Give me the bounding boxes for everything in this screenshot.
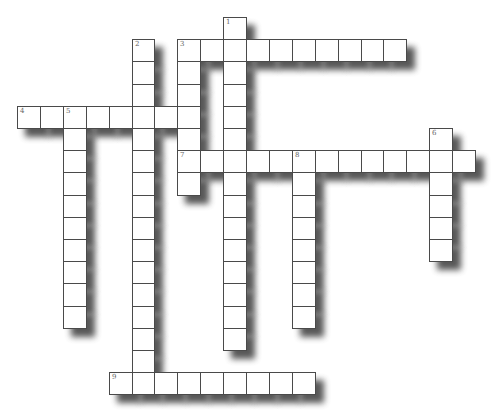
crossword-cell[interactable] [269, 372, 293, 395]
crossword-cell[interactable] [223, 261, 247, 284]
crossword-cell[interactable]: 3 [177, 39, 201, 62]
crossword-cell[interactable] [315, 150, 339, 173]
crossword-cell[interactable] [40, 106, 64, 129]
crossword-cell[interactable] [154, 372, 178, 395]
crossword-cell[interactable] [132, 128, 155, 151]
clue-number: 5 [66, 108, 70, 115]
crossword-cell[interactable] [223, 328, 247, 351]
crossword-cell[interactable] [292, 306, 316, 329]
crossword-cell[interactable] [223, 283, 247, 307]
crossword-cell[interactable] [132, 84, 155, 107]
crossword-cell[interactable] [132, 172, 155, 196]
crossword-cell[interactable] [132, 239, 155, 262]
crossword-cell[interactable] [177, 128, 201, 151]
crossword-cell[interactable] [292, 217, 316, 240]
crossword-cell[interactable] [132, 372, 155, 395]
crossword-cell[interactable] [200, 150, 224, 173]
crossword-cell[interactable] [63, 217, 87, 240]
crossword-cell[interactable] [223, 150, 247, 173]
crossword-cell[interactable] [315, 39, 339, 62]
clue-number: 8 [295, 152, 299, 159]
crossword-cell[interactable] [223, 61, 247, 85]
crossword-cell[interactable] [200, 39, 224, 62]
crossword-cell[interactable] [200, 372, 224, 395]
crossword-cell[interactable] [429, 239, 453, 262]
crossword-cell[interactable]: 5 [63, 106, 87, 129]
crossword-cell[interactable] [63, 283, 87, 307]
crossword-cell[interactable] [132, 61, 155, 85]
crossword-cell[interactable] [109, 106, 133, 129]
crossword-cell[interactable] [132, 306, 155, 329]
clue-number: 9 [112, 374, 116, 381]
crossword-cell[interactable] [361, 150, 384, 173]
crossword-cell[interactable] [63, 150, 87, 173]
crossword-cell[interactable] [429, 172, 453, 196]
crossword-cell[interactable] [177, 172, 201, 196]
crossword-cell[interactable] [63, 261, 87, 284]
crossword-cell[interactable] [292, 172, 316, 196]
crossword-cell[interactable]: 8 [292, 150, 316, 173]
clue-number: 6 [432, 130, 436, 137]
crossword-board: 123745689 [0, 0, 495, 411]
crossword-cell[interactable] [223, 306, 247, 329]
crossword-cell[interactable] [177, 61, 201, 85]
crossword-cell[interactable]: 7 [177, 150, 201, 173]
crossword-cell[interactable] [132, 283, 155, 307]
crossword-cell[interactable] [132, 217, 155, 240]
crossword-cell[interactable] [132, 195, 155, 218]
crossword-cell[interactable] [223, 239, 247, 262]
crossword-cell[interactable] [292, 195, 316, 218]
crossword-cell[interactable] [429, 150, 453, 173]
crossword-cell[interactable] [177, 372, 201, 395]
clue-number: 3 [180, 41, 184, 48]
crossword-cell[interactable] [269, 39, 293, 62]
crossword-cell[interactable] [177, 84, 201, 107]
crossword-cell[interactable] [292, 283, 316, 307]
crossword-cell[interactable] [429, 217, 453, 240]
crossword-cell[interactable] [246, 150, 270, 173]
crossword-cell[interactable] [223, 372, 247, 395]
crossword-cell[interactable] [132, 328, 155, 351]
crossword-cell[interactable] [361, 39, 384, 62]
crossword-cell[interactable] [132, 106, 155, 129]
crossword-cell[interactable] [132, 350, 155, 373]
clue-number: 7 [180, 152, 184, 159]
crossword-cell[interactable]: 9 [109, 372, 133, 395]
crossword-cell[interactable] [177, 106, 201, 129]
crossword-cell[interactable] [223, 217, 247, 240]
crossword-cell[interactable] [86, 106, 110, 129]
crossword-cell[interactable] [223, 195, 247, 218]
crossword-cell[interactable] [452, 150, 476, 173]
crossword-cell[interactable] [292, 372, 316, 395]
crossword-cell[interactable] [246, 39, 270, 62]
crossword-cell[interactable]: 1 [223, 17, 247, 40]
crossword-cell[interactable] [132, 261, 155, 284]
crossword-cell[interactable] [223, 128, 247, 151]
crossword-cell[interactable] [429, 195, 453, 218]
crossword-cell[interactable] [154, 106, 178, 129]
crossword-cell[interactable] [269, 150, 293, 173]
crossword-cell[interactable] [338, 39, 362, 62]
crossword-cell[interactable] [63, 128, 87, 151]
crossword-cell[interactable] [63, 195, 87, 218]
clue-number: 2 [135, 41, 139, 48]
crossword-cell[interactable] [292, 239, 316, 262]
crossword-cell[interactable] [246, 372, 270, 395]
crossword-cell[interactable] [292, 261, 316, 284]
crossword-cell[interactable] [223, 39, 247, 62]
crossword-cell[interactable] [63, 239, 87, 262]
crossword-cell[interactable] [132, 150, 155, 173]
crossword-cell[interactable] [383, 150, 407, 173]
crossword-cell[interactable] [338, 150, 362, 173]
crossword-cell[interactable]: 6 [429, 128, 453, 151]
crossword-cell[interactable]: 4 [17, 106, 41, 129]
crossword-cell[interactable] [292, 39, 316, 62]
crossword-cell[interactable] [63, 306, 87, 329]
crossword-cell[interactable] [223, 106, 247, 129]
crossword-cell[interactable] [223, 84, 247, 107]
crossword-cell[interactable] [383, 39, 407, 62]
crossword-cell[interactable] [63, 172, 87, 196]
crossword-cell[interactable] [223, 172, 247, 196]
crossword-cell[interactable] [406, 150, 430, 173]
crossword-cell[interactable]: 2 [132, 39, 155, 62]
